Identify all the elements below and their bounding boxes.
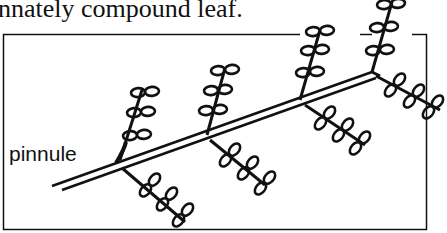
pinna-2-upper xyxy=(199,64,240,135)
pinna-3-lower xyxy=(305,104,372,156)
compound-leaf-diagram xyxy=(0,0,447,233)
pinna-1-upper xyxy=(116,86,159,163)
pinna-4-lower xyxy=(376,71,445,120)
pinnule-label: pinnule xyxy=(9,142,77,166)
rachis xyxy=(52,72,380,190)
pinna-2-lower xyxy=(210,140,277,197)
pinna-1-lower xyxy=(122,168,195,229)
